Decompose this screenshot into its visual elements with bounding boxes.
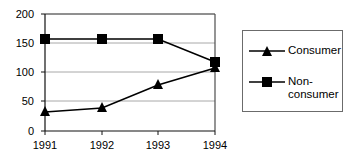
- series-non-consumer: [40, 34, 220, 67]
- triangle-marker-icon: [247, 44, 287, 58]
- x-tick-label-1993: 1993: [141, 140, 175, 151]
- y-tick-label-200: 200: [8, 9, 34, 20]
- series-consumer: [40, 62, 220, 116]
- chart-legend: Consumer Non- consumer: [242, 30, 343, 112]
- square-marker-icon: [247, 75, 287, 89]
- legend-item-non-consumer[interactable]: Non- consumer: [247, 75, 339, 101]
- y-tick-label-150: 150: [8, 38, 34, 49]
- x-tick-label-1992: 1992: [85, 140, 119, 151]
- x-tick-label-1991: 1991: [28, 140, 62, 151]
- gridlines: [45, 14, 215, 101]
- legend-label-consumer: Consumer: [288, 44, 341, 57]
- x-tick-label-1994: 1994: [198, 140, 232, 151]
- y-tick-label-100: 100: [8, 67, 34, 78]
- y-tick-label-0: 0: [8, 126, 34, 137]
- y-tick-label-50: 50: [8, 96, 34, 107]
- line-chart: 200 150 100 50 0 1991 1992 1993 1994: [0, 0, 232, 159]
- plot-area: [0, 0, 232, 159]
- legend-label-non-consumer: Non- consumer: [288, 75, 339, 101]
- legend-item-consumer[interactable]: Consumer: [247, 44, 341, 58]
- x-axis-ticks: [45, 131, 215, 135]
- chart-screenshot: 200 150 100 50 0 1991 1992 1993 1994 Con…: [0, 0, 353, 159]
